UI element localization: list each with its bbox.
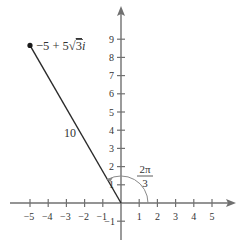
y-tick-label: 2 [109, 161, 114, 172]
y-tick-label: 6 [109, 88, 114, 99]
y-tick-label: 9 [109, 34, 114, 45]
complex-plane-diagram: −5 −4 −3 −2 −1 1 2 3 4 5 −1 1 2 3 4 5 6 … [0, 0, 244, 242]
x-tick-label: 4 [191, 211, 196, 222]
y-tick-label: 3 [109, 143, 114, 154]
y-tick-label: 7 [109, 70, 114, 81]
x-tick-label: −3 [60, 211, 71, 222]
x-tick-label: −5 [24, 211, 35, 222]
imaginary-axis-labels: −1 1 2 3 4 5 6 7 8 9 [104, 34, 115, 227]
x-tick-label: −4 [42, 211, 53, 222]
x-tick-label: −2 [78, 211, 89, 222]
y-tick-label: 8 [109, 52, 114, 63]
real-axis-labels: −5 −4 −3 −2 −1 1 2 3 4 5 [24, 211, 215, 222]
real-axis [10, 199, 236, 207]
point-label: −5 + 5√3i [36, 39, 86, 53]
complex-point [27, 43, 32, 48]
angle-numerator: 2π [139, 163, 151, 175]
y-tick-label: −1 [104, 216, 115, 227]
modulus-label: 10 [64, 126, 76, 140]
imaginary-axis [117, 6, 125, 240]
y-tick-label: 5 [109, 107, 114, 118]
angle-denominator: 3 [142, 177, 148, 189]
x-tick-label: 5 [210, 211, 215, 222]
x-tick-label: 3 [173, 211, 178, 222]
x-tick-label: 2 [155, 211, 160, 222]
x-tick-label: 1 [137, 211, 142, 222]
angle-label: 2π 3 [137, 163, 153, 189]
y-tick-label: 4 [109, 125, 114, 136]
